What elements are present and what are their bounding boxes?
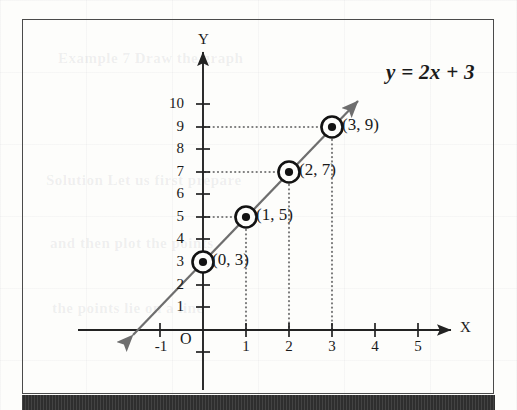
- x-axis-name: X: [460, 319, 471, 336]
- y-tick-label-4: 4: [152, 230, 184, 247]
- figure-page: Example 7 Draw the graph Solution Let us…: [0, 0, 517, 410]
- y-tick-label-5: 5: [152, 208, 184, 225]
- y-tick-label-6: 6: [152, 185, 184, 202]
- x-tick-label-1: 1: [236, 338, 256, 355]
- point-label-1-5: (1, 5): [256, 205, 293, 225]
- y-tick-label-1: 1: [152, 298, 184, 315]
- y-tick-label-3: 3: [152, 253, 184, 270]
- y-tick-label-8: 8: [152, 140, 184, 157]
- y-tick-label-9: 9: [152, 118, 184, 135]
- y-axis-name: Y: [198, 31, 209, 48]
- y-tick-label-2: 2: [152, 276, 184, 293]
- y-tick-label-10: 10: [152, 95, 184, 112]
- x-tick-label-neg1: -1: [150, 338, 172, 355]
- x-tick-label-4: 4: [365, 338, 385, 355]
- point-label-0-3: (0, 3): [212, 250, 249, 270]
- x-tick-label-3: 3: [322, 338, 342, 355]
- y-tick-label-7: 7: [152, 163, 184, 180]
- point-label-3-9: (3, 9): [342, 115, 379, 135]
- page-bottom-band: [22, 395, 495, 410]
- data-point-0-3[interactable]: [193, 252, 214, 273]
- x-tick-label-5: 5: [408, 338, 428, 355]
- guide-lines-vertical: [246, 127, 332, 330]
- x-tick-label-2: 2: [279, 338, 299, 355]
- origin-label: O: [180, 330, 192, 348]
- equation-label: y = 2x + 3: [386, 60, 475, 85]
- point-label-2-7: (2, 7): [299, 160, 336, 180]
- data-point-1-5[interactable]: [236, 207, 257, 228]
- data-point-3-9[interactable]: [322, 117, 343, 138]
- data-point-2-7[interactable]: [279, 162, 300, 183]
